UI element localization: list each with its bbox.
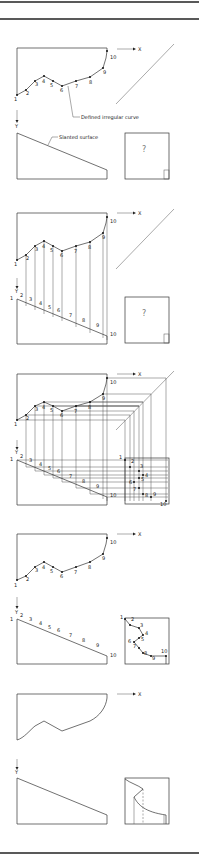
projection-lines (26, 217, 107, 340)
svg-text:5: 5 (50, 247, 53, 253)
svg-text:9: 9 (152, 655, 155, 661)
point-label: 9 (103, 69, 106, 75)
slanted-surface-annotation: Slanted surface (59, 134, 98, 140)
svg-text:4: 4 (145, 630, 148, 636)
svg-text:7: 7 (74, 248, 77, 254)
svg-text:5: 5 (48, 624, 51, 630)
svg-text:5: 5 (48, 304, 51, 310)
svg-text:Y: Y (14, 288, 19, 294)
svg-text:6: 6 (128, 638, 131, 644)
svg-text:6: 6 (57, 468, 60, 474)
svg-text:8: 8 (82, 637, 85, 643)
arrow-head-icon (133, 533, 136, 536)
svg-text:3: 3 (140, 463, 143, 469)
svg-text:9: 9 (102, 234, 105, 240)
svg-text:8: 8 (145, 492, 148, 498)
svg-text:2: 2 (20, 453, 23, 459)
svg-text:X: X (138, 210, 142, 216)
svg-text:4: 4 (42, 404, 45, 410)
svg-text:2: 2 (26, 576, 29, 582)
svg-text:2: 2 (131, 458, 134, 464)
svg-text:10: 10 (110, 492, 116, 498)
step-3: 1 2 3 4 5 6 7 8 9 10 X Y 1 2 3 4 5 6 7 8… (10, 371, 174, 507)
miter-line (116, 209, 174, 269)
step-1: 1 2 3 4 5 6 7 8 9 10 X Defined irregular… (14, 44, 174, 179)
svg-text:3: 3 (29, 457, 32, 463)
point-label: 8 (89, 79, 92, 85)
svg-text:3: 3 (140, 622, 143, 628)
svg-text:1: 1 (14, 261, 17, 267)
svg-text:4: 4 (39, 300, 42, 306)
point-label: 6 (60, 87, 63, 93)
svg-text:8: 8 (144, 650, 147, 656)
svg-text:2: 2 (20, 292, 23, 298)
svg-text:1: 1 (10, 456, 13, 462)
point-label: 1 (14, 96, 17, 102)
unknown-marker: ? (142, 309, 146, 318)
svg-text:X: X (138, 531, 142, 537)
svg-text:8: 8 (88, 564, 91, 570)
unknown-marker: ? (142, 145, 146, 154)
svg-text:10: 10 (110, 652, 116, 658)
svg-text:7: 7 (133, 643, 136, 649)
svg-text:1: 1 (10, 616, 13, 622)
arrow-head-icon (133, 373, 136, 376)
svg-text:5: 5 (141, 476, 144, 482)
svg-text:6: 6 (57, 307, 60, 313)
y-axis-label: Y (14, 123, 19, 129)
step-4: 1 2 3 4 5 6 7 8 9 10 X Y 1 2 3 4 5 6 7 8… (10, 531, 169, 664)
svg-text:2: 2 (26, 415, 29, 421)
svg-text:9: 9 (102, 395, 105, 401)
svg-text:4: 4 (39, 620, 42, 626)
svg-text:8: 8 (88, 244, 91, 250)
svg-text:7: 7 (74, 569, 77, 575)
irregular-curve-projection-diagram: 1 2 3 4 5 6 7 8 9 10 X Defined irregular… (0, 0, 199, 859)
svg-text:7: 7 (69, 473, 72, 479)
svg-text:7: 7 (69, 632, 72, 638)
svg-text:4: 4 (145, 472, 148, 478)
svg-text:2: 2 (26, 255, 29, 261)
irregular-curve (17, 698, 107, 740)
svg-text:4: 4 (42, 564, 45, 570)
svg-text:10: 10 (110, 539, 116, 545)
svg-text:6: 6 (57, 627, 60, 633)
arrow-head-icon (133, 48, 136, 51)
svg-text:3: 3 (35, 567, 38, 573)
svg-text:4: 4 (42, 243, 45, 249)
svg-text:X: X (138, 371, 142, 377)
step-2: 1 2 3 4 5 6 7 8 9 10 X Y 1 2 3 4 5 6 7 8… (10, 209, 174, 344)
svg-text:3: 3 (35, 406, 38, 412)
svg-text:Y: Y (14, 769, 19, 775)
svg-text:3: 3 (29, 616, 32, 622)
svg-text:10: 10 (110, 218, 116, 224)
point-label: 7 (75, 83, 78, 89)
svg-text:8: 8 (82, 478, 85, 484)
svg-text:9: 9 (102, 555, 105, 561)
svg-text:8: 8 (88, 404, 91, 410)
svg-text:9: 9 (96, 322, 99, 328)
svg-text:8: 8 (82, 317, 85, 323)
svg-text:6: 6 (129, 479, 132, 485)
svg-text:4: 4 (39, 461, 42, 467)
svg-text:5: 5 (48, 465, 51, 471)
svg-text:3: 3 (29, 296, 32, 302)
svg-text:5: 5 (141, 636, 144, 642)
svg-text:1: 1 (119, 454, 122, 460)
svg-text:6: 6 (60, 573, 63, 579)
front-view-outline (17, 778, 107, 824)
miter-line (116, 371, 174, 430)
point-label: 10 (110, 54, 116, 60)
svg-text:10: 10 (110, 331, 116, 337)
svg-text:1: 1 (120, 614, 123, 620)
miter-line (116, 44, 174, 104)
side-view-outline (125, 297, 169, 343)
point-label: 2 (26, 90, 29, 96)
svg-text:9: 9 (96, 642, 99, 648)
svg-text:6: 6 (60, 252, 63, 258)
defined-curve-annotation: Defined irregular curve (81, 114, 139, 121)
point-label: 3 (35, 81, 38, 87)
svg-text:7: 7 (133, 486, 136, 492)
x-axis-label: X (138, 46, 142, 52)
svg-text:9: 9 (96, 483, 99, 489)
side-view-outline (125, 778, 169, 824)
